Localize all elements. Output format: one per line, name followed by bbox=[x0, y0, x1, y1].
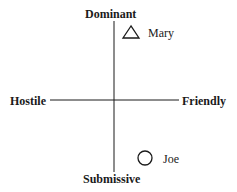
circle-marker-joe bbox=[138, 151, 152, 165]
axis-label-dominant: Dominant bbox=[85, 8, 136, 20]
axis-label-submissive: Submissive bbox=[83, 173, 140, 185]
point-label-mary: Mary bbox=[148, 27, 174, 39]
axis-label-hostile: Hostile bbox=[10, 95, 46, 107]
point-label-joe: Joe bbox=[163, 153, 179, 165]
axis-label-friendly: Friendly bbox=[182, 95, 226, 107]
triangle-marker-mary bbox=[123, 26, 139, 38]
